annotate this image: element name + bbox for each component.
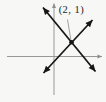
figure-canvas bbox=[0, 0, 106, 102]
label-leader-line bbox=[68, 20, 71, 40]
intersecting-lines-figure: (2, 1) bbox=[0, 0, 106, 102]
y-axis-arrow-icon bbox=[52, 4, 56, 9]
line-positive-slope bbox=[44, 20, 93, 73]
x-axis-arrow-icon bbox=[98, 54, 103, 58]
intersection-point bbox=[69, 40, 74, 45]
intersection-point-label: (2, 1) bbox=[59, 5, 85, 16]
line-negative-slope bbox=[43, 8, 96, 72]
